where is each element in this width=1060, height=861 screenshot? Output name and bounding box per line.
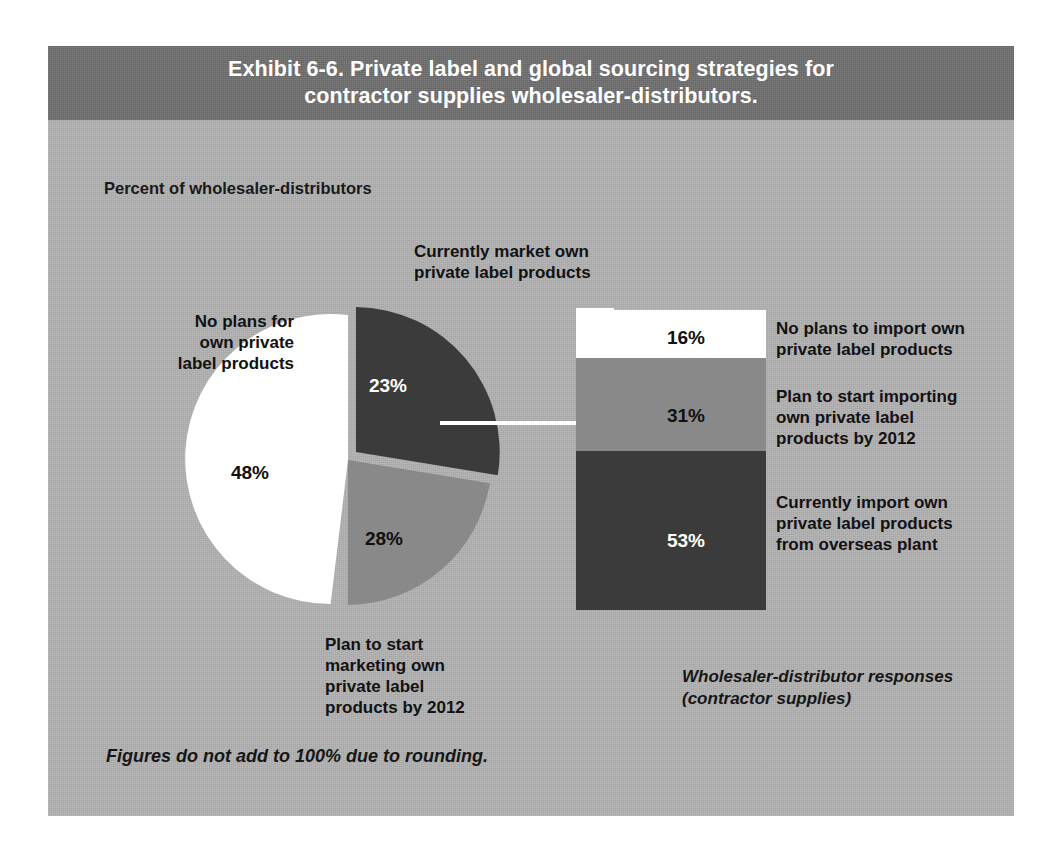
stacked-bar (576, 310, 766, 610)
exhibit-page: Exhibit 6-6. Private label and global so… (0, 0, 1060, 861)
bar-label-no-plans-import: No plans to import own private label pro… (776, 318, 1016, 360)
note-responses: Wholesaler-distributor responses (contra… (682, 666, 982, 710)
bar-value-currently-import: 53% (636, 530, 736, 552)
pie-value-plan-to-start: 28% (344, 528, 424, 550)
pie-label-currently-market: Currently market own private label produ… (414, 241, 674, 283)
bar-label-currently-import: Currently import own private label produ… (776, 492, 1016, 555)
bar-value-plan-import: 31% (636, 405, 736, 427)
pie-label-plan-to-start: Plan to start marketing own private labe… (325, 634, 555, 718)
bar-label-plan-import: Plan to start importing own private labe… (776, 386, 1016, 449)
pie-value-currently-market: 23% (348, 375, 428, 397)
note-rounding: Figures do not add to 100% due to roundi… (106, 746, 488, 767)
pie-label-no-plans: No plans for own private label products (78, 311, 294, 374)
bar-value-no-plans-import: 16% (636, 327, 736, 349)
exhibit-panel: Exhibit 6-6. Private label and global so… (48, 46, 1014, 816)
chart-stage: Currently market own private label produ… (48, 46, 1014, 816)
pie-value-no-plans: 48% (210, 462, 290, 484)
